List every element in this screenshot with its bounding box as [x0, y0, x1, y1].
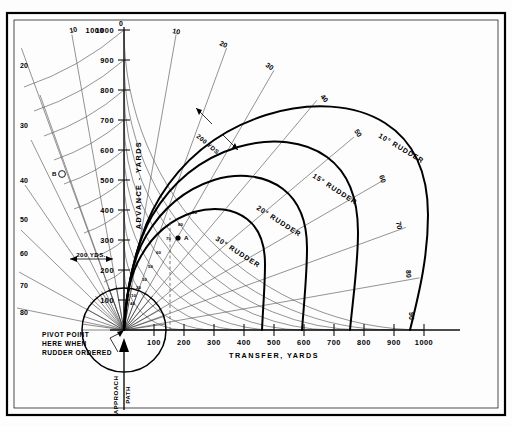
callout-200-yds-lower: 200 YDS.	[70, 251, 113, 262]
label-30-degree-rudder: 30° RUDDER	[214, 235, 261, 269]
curve-marker-50: 50	[148, 264, 153, 269]
angle-label-left-50: 50	[20, 216, 28, 223]
marker-b-circle	[59, 171, 66, 178]
curve-marker-90: 90	[192, 210, 197, 215]
angle-label-left-40: 40	[20, 177, 28, 184]
angle-label-top-neg10: 10	[69, 25, 78, 33]
angle-label-left-20: 20	[20, 62, 28, 69]
callout-200-lower-label: 200 YDS.	[76, 251, 106, 258]
y-tick-600: 600	[100, 146, 114, 155]
approach-arrow-head	[119, 338, 129, 352]
polar-degree-labels-right: 40 50 60 70 80 90	[319, 93, 415, 320]
marker-a-group: A	[175, 234, 189, 241]
angle-label-right-40: 40	[319, 93, 329, 104]
angle-label-left-70: 70	[20, 282, 28, 289]
turning-circle-figure: 100 200 300 400 500 600 700 800 900 1000…	[0, 0, 512, 427]
x-tick-500: 500	[267, 338, 281, 347]
y-tick-700: 700	[100, 116, 114, 125]
curve-marker-80: 80	[178, 222, 183, 227]
curve-marker-60: 60	[156, 250, 161, 255]
curve-marker-20: 20	[136, 285, 141, 290]
marker-a-label: A	[184, 234, 189, 241]
x-tick-700: 700	[327, 338, 341, 347]
polar-grid	[17, 30, 424, 330]
marker-a-dot	[175, 235, 180, 240]
angle-label-top-0: 0	[119, 20, 123, 27]
y-tick-800: 800	[100, 86, 114, 95]
y-tick-900: 900	[100, 56, 114, 65]
angle-label-top-20: 20	[219, 40, 229, 50]
marker-b-label: B	[52, 170, 57, 177]
y-tick-300: 300	[100, 236, 114, 245]
angle-label-top-30: 30	[264, 61, 275, 71]
x-axis-tick-labels: 100 200 300 400 500 600 700 800 900 1000	[147, 338, 433, 347]
x-axis-label: TRANSFER, YARDS	[229, 351, 319, 360]
angle-label-right-50: 50	[353, 128, 363, 138]
polar-radius-label-1000: 1000	[86, 26, 104, 35]
marker-b-group: B	[52, 170, 65, 177]
pivot-point-note: PIVOT POINT HERE WHEN RUDDER ORDERED	[42, 330, 124, 356]
angle-label-right-80: 80	[405, 270, 412, 278]
label-20-degree-rudder: 20° RUDDER	[255, 204, 302, 238]
angle-label-left-80: 80	[20, 309, 28, 316]
approach-path-label-2: PATH	[124, 386, 131, 404]
y-tick-500: 500	[100, 176, 114, 185]
approach-path-group: APPROACH PATH	[112, 338, 131, 414]
x-tick-400: 400	[237, 338, 251, 347]
y-tick-400: 400	[100, 206, 114, 215]
curve-marker-40: 40	[130, 301, 135, 306]
pivot-note-line1: PIVOT POINT	[42, 331, 89, 338]
y-axis-label: ADVANCE - YARDS	[134, 141, 143, 229]
y-axis-tick-labels: 100 200 300 400 500 600 700 800 900 1000	[96, 26, 114, 305]
x-tick-200: 200	[177, 338, 191, 347]
x-tick-800: 800	[357, 338, 371, 347]
x-tick-300: 300	[207, 338, 221, 347]
curve-marker-10: 10	[131, 293, 136, 298]
y-tick-200: 200	[100, 266, 114, 275]
angle-label-top-10: 10	[172, 27, 181, 35]
pivot-note-line3: RUDDER ORDERED	[42, 349, 112, 356]
curve-marker-30: 30	[142, 277, 147, 282]
angle-label-right-70: 70	[395, 221, 403, 230]
x-tick-1000: 1000	[415, 338, 433, 347]
angle-label-left-30: 30	[20, 122, 28, 129]
approach-path-label-1: APPROACH	[112, 376, 119, 415]
x-tick-100: 100	[147, 338, 161, 347]
angle-label-left-60: 60	[20, 250, 28, 257]
curve-marker-70: 70	[166, 236, 171, 241]
x-tick-900: 900	[387, 338, 401, 347]
pivot-note-line2: HERE WHEN	[42, 340, 87, 347]
x-tick-600: 600	[297, 338, 311, 347]
polar-degree-labels-left: 20 30 40 50 60 70 80	[20, 62, 28, 316]
turning-circle-chart: 100 200 300 400 500 600 700 800 900 1000…	[0, 0, 512, 427]
